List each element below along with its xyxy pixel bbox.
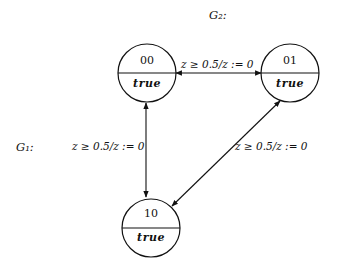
state-10-invariant: true bbox=[131, 231, 171, 244]
graph-label-g2: G₂: bbox=[209, 8, 227, 22]
state-01 bbox=[261, 44, 319, 102]
graph-label-g1: G₁: bbox=[16, 140, 34, 154]
state-00-invariant: true bbox=[127, 77, 167, 90]
state-00 bbox=[118, 44, 176, 102]
edge-01-10-label: z ≥ 0.5/z := 0 bbox=[235, 140, 307, 152]
state-00-name: 00 bbox=[127, 54, 167, 67]
state-01-name: 01 bbox=[270, 54, 310, 67]
diagram-canvas bbox=[0, 0, 337, 269]
state-10-name: 10 bbox=[131, 207, 171, 220]
edge-01-10 bbox=[172, 101, 280, 206]
edge-00-10-label: z ≥ 0.5/z := 0 bbox=[72, 140, 144, 152]
state-01-invariant: true bbox=[270, 77, 310, 90]
edge-00-01-label: z ≥ 0.5/z := 0 bbox=[181, 58, 253, 70]
